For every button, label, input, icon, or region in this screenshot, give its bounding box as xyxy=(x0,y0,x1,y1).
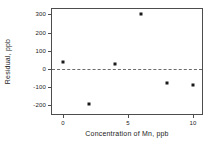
x-tick-label: 5 xyxy=(126,120,130,126)
x-tick-label: 0 xyxy=(61,120,65,126)
y-axis-title: Residual, ppb xyxy=(3,8,13,115)
x-tick-mark xyxy=(63,114,64,118)
y-tick-mark xyxy=(48,51,52,52)
x-tick-mark xyxy=(193,114,194,118)
y-tick-mark xyxy=(48,14,52,15)
y-tick-label: 0 xyxy=(42,66,46,72)
y-tick-label: 300 xyxy=(35,11,46,17)
data-point xyxy=(114,63,117,66)
data-point xyxy=(88,103,91,106)
y-tick-label: 200 xyxy=(35,30,46,36)
data-point xyxy=(191,83,194,86)
data-point xyxy=(62,60,65,63)
plot-area: 3002001000-100-200 0510 xyxy=(51,8,203,115)
y-tick-mark xyxy=(48,105,52,106)
y-tick-mark xyxy=(48,87,52,88)
x-axis-title: Concentration of Mn, ppb xyxy=(51,130,203,137)
y-tick-label: -200 xyxy=(33,102,46,108)
y-tick-mark xyxy=(48,69,52,70)
y-tick-label: -100 xyxy=(33,84,46,90)
y-tick-label: 100 xyxy=(35,48,46,54)
x-tick-label: 10 xyxy=(189,120,196,126)
zero-reference-line xyxy=(52,69,202,70)
y-axis-title-text: Residual, ppb xyxy=(5,39,12,84)
x-tick-mark xyxy=(128,114,129,118)
data-point xyxy=(165,81,168,84)
data-point xyxy=(139,13,142,16)
y-tick-mark xyxy=(48,33,52,34)
residual-scatter-chart: 3002001000-100-200 0510 Residual, ppb Co… xyxy=(0,0,215,145)
